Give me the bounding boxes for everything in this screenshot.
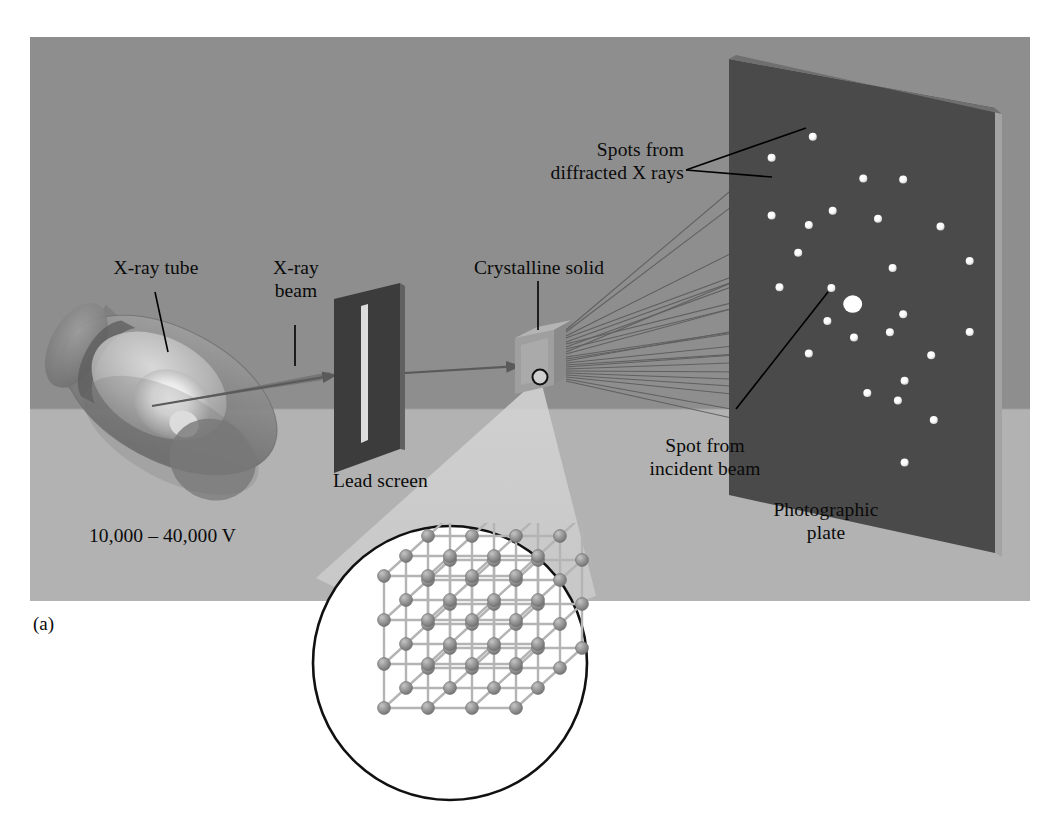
lattice-atom	[400, 682, 413, 695]
label-photographic-plate-line1: Photographic	[735, 498, 917, 521]
lattice-atom	[422, 658, 435, 671]
lattice-atom	[444, 682, 457, 695]
diffraction-spot	[901, 459, 909, 467]
lattice-atom	[488, 550, 501, 563]
lattice-atom	[488, 638, 501, 651]
lattice-atom	[532, 550, 545, 563]
lattice-atom	[510, 614, 523, 627]
label-crystalline-solid: Crystalline solid	[439, 256, 639, 279]
label-xray-tube: X-ray tube	[84, 256, 228, 279]
diffraction-spot	[768, 154, 776, 162]
lattice-atom	[466, 614, 479, 627]
lattice-atom	[554, 662, 567, 675]
diffraction-spot	[827, 284, 835, 292]
diffraction-spot	[930, 416, 938, 424]
lattice-atom	[422, 570, 435, 583]
lattice-atom	[422, 614, 435, 627]
lattice-atom	[444, 638, 457, 651]
lattice-atom	[576, 598, 589, 611]
lattice-atom	[378, 570, 391, 583]
diffraction-spot	[823, 317, 831, 325]
lattice-atom	[532, 594, 545, 607]
diffraction-spot	[805, 350, 813, 358]
diffraction-spot	[966, 328, 974, 336]
lattice-atom	[576, 554, 589, 567]
lattice-atom	[510, 570, 523, 583]
lattice-atom	[488, 682, 501, 695]
plate-right-edge	[995, 108, 1002, 557]
diffraction-spot	[863, 389, 871, 397]
diffraction-spot	[874, 215, 882, 223]
diffraction-spot	[899, 310, 907, 318]
lattice-atom	[466, 702, 479, 715]
label-spot-incident-line2: incident beam	[612, 457, 798, 480]
photographic-plate	[729, 55, 1002, 557]
diffraction-spot	[889, 264, 897, 272]
label-spots-diffracted-line2: diffracted X rays	[426, 161, 684, 184]
lattice-atom	[444, 594, 457, 607]
diffraction-spot	[937, 223, 945, 231]
label-xray-beam-line1: X-ray	[250, 256, 342, 279]
diffraction-spot	[901, 377, 909, 385]
diffraction-spot	[850, 333, 858, 341]
lead-screen	[334, 283, 405, 473]
lattice-atom	[554, 530, 567, 543]
label-spots-diffracted-line1: Spots from	[426, 138, 684, 161]
lattice-atom	[422, 530, 435, 543]
diffraction-spot	[899, 176, 907, 184]
lattice-atom	[510, 530, 523, 543]
lattice-atom	[444, 550, 457, 563]
diffraction-spot	[894, 397, 902, 405]
lattice-atom	[422, 702, 435, 715]
diffraction-spot	[809, 133, 817, 141]
lattice-atom	[510, 702, 523, 715]
label-voltage: 10,000 – 40,000 V	[89, 524, 236, 547]
diffraction-spot	[966, 257, 974, 265]
diffraction-spot	[776, 283, 784, 291]
lead-screen-slit	[361, 304, 368, 443]
lattice-inset	[310, 523, 590, 803]
figure-root: X-ray tube X-ray beam 10,000 – 40,000 V …	[0, 0, 1057, 814]
lattice-atom	[466, 658, 479, 671]
diffraction-spot	[805, 221, 813, 229]
lattice-atom	[378, 658, 391, 671]
label-xray-beam-line2: beam	[250, 279, 342, 302]
lattice-atom	[554, 574, 567, 587]
diffraction-spot	[859, 175, 867, 183]
lattice-atom	[554, 618, 567, 631]
lattice-atom	[400, 638, 413, 651]
lattice-atom	[532, 638, 545, 651]
diffraction-spot	[768, 212, 776, 220]
lattice-atom	[466, 570, 479, 583]
lattice-atom	[378, 614, 391, 627]
diffraction-spot	[829, 207, 837, 215]
diffraction-spot	[927, 351, 935, 359]
label-lead-screen: Lead screen	[333, 469, 428, 492]
lattice-atom	[400, 550, 413, 563]
lattice-atom	[532, 682, 545, 695]
diffraction-spot	[794, 249, 802, 257]
lattice-atom	[400, 594, 413, 607]
label-spot-incident-line1: Spot from	[612, 434, 798, 457]
magnifier-origin-marker	[533, 370, 548, 385]
lattice-atom	[378, 702, 391, 715]
incident-beam-spot	[843, 295, 862, 312]
panel-letter: (a)	[33, 613, 54, 635]
lattice-atom	[510, 658, 523, 671]
label-photographic-plate-line2: plate	[735, 521, 917, 544]
lead-screen-edge	[400, 283, 405, 450]
lattice-atom	[488, 594, 501, 607]
lattice-atom	[576, 642, 589, 655]
lattice-atom	[466, 530, 479, 543]
diffraction-spot	[886, 328, 894, 336]
